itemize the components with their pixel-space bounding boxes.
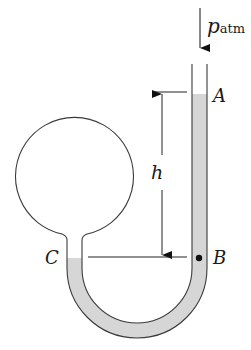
manometer-diagram: patm A h B C [0, 0, 251, 350]
bulb-outline [15, 117, 133, 268]
point-a-label: A [211, 85, 226, 106]
patm-label: patm [207, 14, 245, 38]
height-label: h [151, 161, 163, 183]
point-b-label: B [212, 247, 226, 268]
point-b-marker [196, 255, 202, 261]
liquid-fill [67, 94, 207, 338]
point-c-label: C [45, 247, 59, 268]
